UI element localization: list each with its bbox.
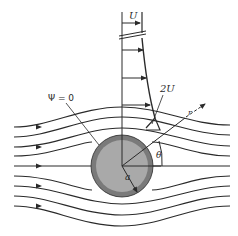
streamline-8 [14,196,230,215]
velocity-profile [119,12,163,130]
arrow-icon [36,164,42,169]
flow-diagram: U 2U Ψ = 0 r θ a [0,0,238,236]
arrow-icon [36,125,42,130]
label-theta: θ [156,150,162,160]
streamline-9 [14,206,230,226]
label-max-velocity: 2U [159,83,175,94]
label-radius: a [125,172,130,182]
arrow-icon [36,204,42,209]
label-free-stream: U [129,10,138,21]
2u-leader [152,95,163,124]
label-dividing-streamline: Ψ = 0 [48,93,74,103]
